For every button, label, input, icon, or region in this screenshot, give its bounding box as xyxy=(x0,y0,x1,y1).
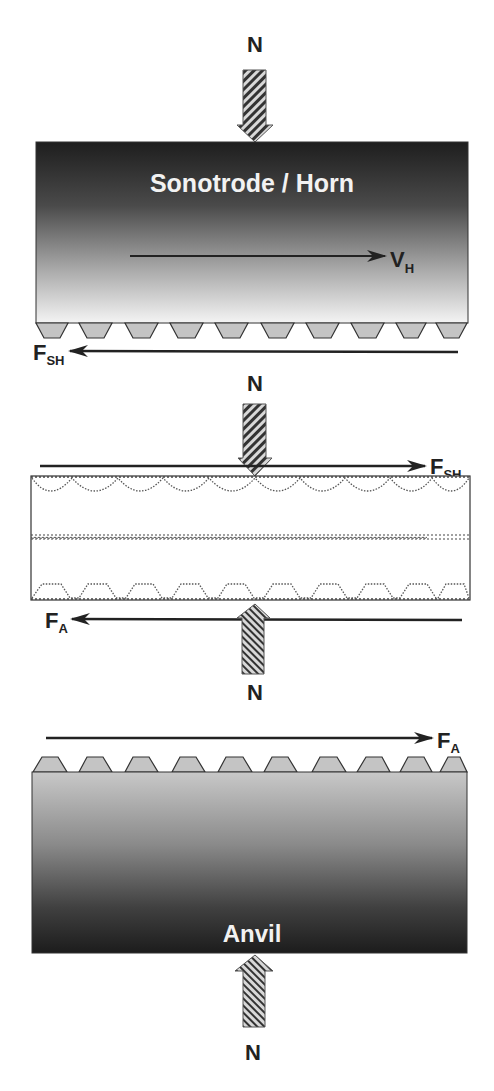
shear-force-label-horn: FSH xyxy=(33,340,65,368)
sonotrode-horn: Sonotrode / Horn VH xyxy=(36,142,468,338)
anvil-teeth xyxy=(33,757,467,772)
anvil: Anvil xyxy=(32,757,467,953)
anvil-force-anvil: FA xyxy=(46,728,460,756)
hatched-arrow-down-icon xyxy=(237,70,273,142)
shear-force-horn: FSH xyxy=(33,340,458,368)
anvil-force-label-workpiece: FA xyxy=(45,608,68,636)
horn-teeth xyxy=(36,323,467,338)
normal-force-label-bottom: N xyxy=(245,1040,261,1065)
horn-label: Sonotrode / Horn xyxy=(150,169,354,197)
normal-force-label-middle-top: N xyxy=(247,371,263,396)
workpiece-stack xyxy=(31,476,470,600)
normal-force-label-middle-bottom: N xyxy=(247,680,263,705)
welding-diagram: N Sonotrode / Horn VH FSH N xyxy=(0,0,494,1091)
arrow-left-icon xyxy=(72,619,462,620)
hatched-arrow-up-icon xyxy=(237,604,270,674)
normal-force-top: N xyxy=(237,32,273,142)
hatched-arrow-up-icon xyxy=(235,955,273,1027)
anvil-force-label-anvil: FA xyxy=(437,728,460,756)
arrow-left-icon xyxy=(70,351,458,352)
normal-force-label-top: N xyxy=(247,32,263,57)
normal-force-bottom: N xyxy=(235,955,273,1065)
normal-force-middle-top: N xyxy=(238,371,272,476)
anvil-label: Anvil xyxy=(223,920,282,947)
